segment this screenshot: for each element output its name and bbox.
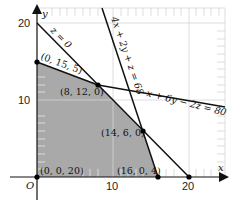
feasible-region-diagram: y x O 20 10 10 20 (0, 15, 5) (8, 12, 0) …	[0, 0, 229, 205]
x-tick-20: 20	[182, 180, 194, 192]
label-14-6-0: (14, 6, 0)	[101, 127, 145, 138]
label-0-0-20: (0, 0, 20)	[40, 165, 84, 176]
x-tick-10: 10	[106, 180, 118, 192]
x-axis-arrow-icon	[219, 172, 229, 182]
y-axis-label: y	[41, 8, 48, 19]
y-tick-20: 20	[18, 17, 30, 29]
y-axis-arrow-icon	[32, 4, 42, 14]
point-20-0	[186, 174, 191, 179]
y-tick-10: 10	[18, 94, 30, 106]
x-axis-label: x	[218, 162, 224, 173]
label-16-0-4: (16, 0, 4)	[117, 165, 161, 176]
point-0-0-20	[34, 174, 39, 179]
label-8-12-0: (8, 12, 0)	[60, 86, 104, 97]
origin-label: O	[26, 180, 34, 191]
label-x-6y-2z-80: x + 6y − 2z = 80	[146, 87, 228, 117]
